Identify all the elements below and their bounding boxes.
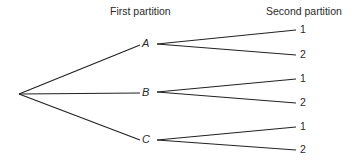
edge-c-1 <box>157 127 296 140</box>
edge-root-a <box>19 45 140 94</box>
node-a-label: A <box>142 37 149 49</box>
leaf-a-2: 2 <box>300 48 306 60</box>
leaf-b-1: 1 <box>300 72 306 84</box>
edge-root-b <box>19 93 140 94</box>
partition-tree-diagram: First partition Second partition A B C 1… <box>0 0 360 163</box>
edge-a-1 <box>157 30 296 44</box>
node-b-label: B <box>142 86 149 98</box>
leaf-b-2: 2 <box>300 96 306 108</box>
edge-a-2 <box>157 44 296 55</box>
leaf-c-1: 1 <box>300 120 306 132</box>
leaf-c-2: 2 <box>300 143 306 155</box>
edge-b-1 <box>157 79 296 92</box>
edge-c-2 <box>157 140 296 150</box>
edge-b-2 <box>157 92 296 103</box>
leaf-a-1: 1 <box>300 23 306 35</box>
edge-root-c <box>19 94 140 140</box>
node-c-label: C <box>142 133 150 145</box>
tree-edges <box>0 0 360 163</box>
